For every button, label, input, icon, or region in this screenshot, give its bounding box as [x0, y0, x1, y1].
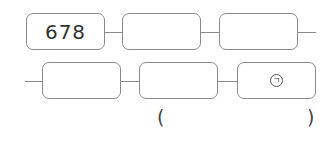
answer-close-paren: )	[307, 106, 314, 128]
chain-box-5[interactable]	[139, 62, 218, 99]
start-number: 678	[45, 20, 86, 44]
circled-giyeok-marker-icon: ㄱ	[270, 74, 283, 87]
connector-row2-entry	[25, 81, 42, 82]
chain-box-1: 678	[26, 13, 105, 50]
chain-box-6: ㄱ	[237, 62, 316, 99]
connector-4-5	[121, 81, 139, 82]
chain-box-4[interactable]	[42, 62, 121, 99]
chain-box-2[interactable]	[122, 13, 201, 50]
connector-2-3	[201, 32, 219, 33]
answer-blank[interactable]	[170, 110, 305, 130]
answer-open-paren: (	[157, 106, 164, 128]
connector-5-6	[218, 81, 237, 82]
chain-box-3[interactable]	[219, 13, 298, 50]
connector-row1-exit	[298, 32, 316, 33]
connector-1-2	[105, 32, 122, 33]
